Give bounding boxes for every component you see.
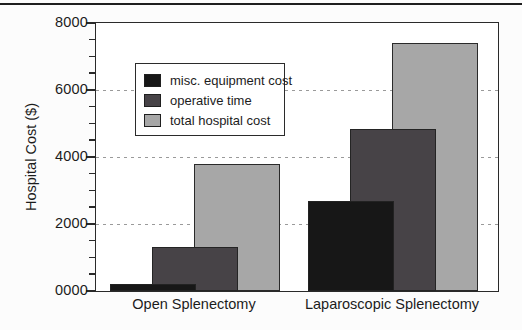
legend-label: total hospital cost: [170, 113, 270, 128]
minor-tick-1000: [89, 257, 95, 259]
legend-swatch-icon: [144, 114, 161, 127]
minor-tick-5000: [89, 123, 95, 125]
minor-tick-7000: [89, 56, 95, 58]
ytick-label-8000: 8000: [38, 14, 88, 30]
ytick-label-0000: 0000: [38, 282, 88, 298]
legend-label: operative time: [170, 93, 252, 108]
minor-tick-3000: [89, 190, 95, 192]
x-category-label-0: Open Splenectomy: [84, 296, 304, 312]
ytick-label-4000: 4000: [38, 148, 88, 164]
legend-row-1: operative time: [144, 90, 276, 110]
minor-tick-2500: [89, 206, 95, 208]
bar-series0-cat0: [110, 284, 196, 291]
minor-tick-6500: [89, 72, 95, 74]
ytick-label-6000: 6000: [38, 81, 88, 97]
page-top-rule: [0, 3, 522, 5]
x-category-label-1: Laparoscopic Splenectomy: [282, 296, 502, 312]
legend-swatch-icon: [144, 94, 161, 107]
ytick-label-2000: 2000: [38, 215, 88, 231]
minor-tick-5500: [89, 106, 95, 108]
minor-tick-500: [89, 273, 95, 275]
legend-row-0: misc. equipment cost: [144, 70, 276, 90]
minor-tick-7500: [89, 39, 95, 41]
minor-tick-1500: [89, 240, 95, 242]
minor-tick-4500: [89, 139, 95, 141]
legend-swatch-icon: [144, 74, 161, 87]
figure-page: Hospital Cost ($) misc. equipment costop…: [0, 0, 522, 330]
legend: misc. equipment costoperative timetotal …: [135, 63, 285, 136]
legend-label: misc. equipment cost: [170, 73, 292, 88]
bar-series0-cat1: [308, 201, 394, 291]
minor-tick-3500: [89, 173, 95, 175]
legend-row-2: total hospital cost: [144, 110, 276, 130]
